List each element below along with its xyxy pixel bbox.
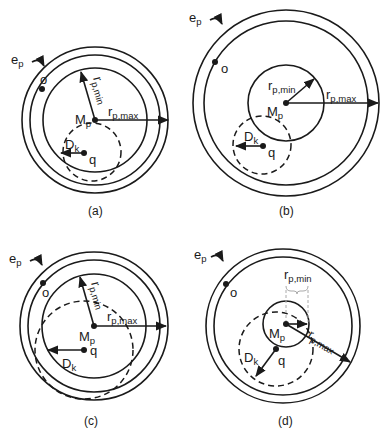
o-label: o — [40, 72, 47, 87]
figure-canvas: ep o rp,min rp,max Mp Dk q (a) ep o rp,m… — [0, 0, 383, 440]
o-label: o — [221, 61, 228, 76]
caption-a: (a) — [88, 204, 103, 218]
point-mp — [92, 117, 98, 123]
rmax-label: rp,max — [326, 87, 356, 104]
point-mp — [91, 323, 97, 329]
rmin-brace — [286, 286, 308, 294]
panel-a: ep o rp,min rp,max Mp Dk q (a) — [11, 47, 168, 218]
mp-label: Mp — [267, 104, 283, 121]
mp-label: Mp — [75, 112, 91, 129]
panel-c: ep o rp,min rp,max Mp Dk q (c) — [9, 251, 168, 428]
q-label: q — [278, 353, 285, 368]
q-label: q — [268, 145, 275, 160]
point-mp — [283, 321, 289, 327]
panel-d: ep o rp,min rp,max Mp Dk q (d) — [194, 247, 360, 428]
q-label: q — [89, 152, 96, 167]
ring-circle — [214, 257, 352, 395]
ep-label: ep — [11, 52, 24, 69]
dk-arrow — [256, 349, 276, 376]
dk-label: Dk — [244, 129, 258, 146]
q-label: q — [90, 343, 97, 358]
caption-d: (d) — [278, 414, 293, 428]
ep-pointer-arrow — [30, 259, 42, 265]
mp-label: Mp — [269, 326, 285, 343]
rmax-label: rp,max — [108, 104, 138, 121]
rmin-label: rp,min — [268, 78, 296, 95]
caption-c: (c) — [84, 414, 98, 428]
dk-label: Dk — [62, 356, 76, 373]
ep-label: ep — [9, 251, 22, 268]
rmin-label: rp,min — [88, 75, 112, 106]
panel-b: ep o rp,min rp,max Mp Dk q (b) — [189, 10, 379, 218]
o-label: o — [230, 285, 237, 300]
dk-label: Dk — [65, 137, 79, 154]
caption-b: (b) — [279, 204, 294, 218]
point-o — [212, 59, 218, 65]
ep-pointer-arrow — [210, 18, 222, 24]
ep-label: ep — [189, 10, 202, 27]
dk-label: Dk — [244, 350, 258, 367]
ep-label: ep — [194, 247, 207, 264]
ep-pointer-arrow — [32, 60, 44, 66]
ep-pointer-arrow — [211, 255, 223, 261]
point-o — [223, 281, 229, 287]
point-mp — [283, 100, 289, 106]
rmax-label: rp,max — [107, 309, 137, 326]
outer-circle — [206, 249, 360, 403]
o-label: o — [42, 285, 49, 300]
rmin-label: rp,min — [284, 267, 312, 284]
